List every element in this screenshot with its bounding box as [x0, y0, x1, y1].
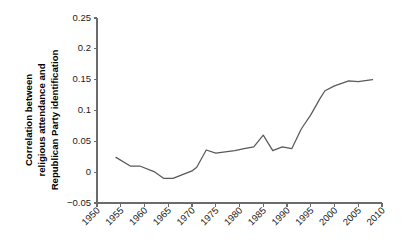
x-tick-label: 1965	[150, 205, 173, 228]
x-tick-label: 1985	[245, 205, 268, 228]
x-tick-label: 2000	[317, 205, 340, 228]
x-tick-label: 1955	[103, 205, 126, 228]
x-tick-label: 1980	[222, 205, 245, 228]
y-tick-label: 0.1	[78, 104, 91, 115]
x-tick-labels: 1950195519601965197019751980198519901995…	[79, 205, 387, 228]
correlation-line-chart: Correlation between religious attendance…	[0, 0, 402, 252]
y-tick-label: 0.2	[78, 42, 91, 53]
x-tick-label: 1960	[127, 205, 150, 228]
x-tick-label: 1990	[269, 205, 292, 228]
x-tick-label: 2005	[340, 205, 363, 228]
y-tick-label: 0	[86, 166, 91, 177]
y-axis-title-group: Correlation between religious attendance…	[23, 49, 60, 190]
y-axis-title-line-1: Correlation between	[23, 74, 34, 166]
x-tick-label: 1975	[198, 205, 221, 228]
y-tick-label: 0.05	[73, 135, 92, 146]
data-series-line	[116, 80, 373, 179]
y-tick-label: 0.15	[73, 73, 92, 84]
y-tick-label: 0.25	[73, 12, 92, 23]
y-axis-title-line-2: religious attendance and	[36, 63, 47, 176]
chart-figure: Correlation between religious attendance…	[0, 0, 402, 252]
x-tick-label: 1950	[79, 205, 102, 228]
data-series-group	[116, 80, 373, 179]
x-tick-label: 1995	[293, 205, 316, 228]
y-tick-labels: −0.0500.050.10.150.20.25	[67, 12, 91, 208]
y-axis-title-line-3: Republican Party identification	[49, 49, 60, 190]
x-tick-label: 1970	[174, 205, 197, 228]
y-tick-label: −0.05	[67, 197, 91, 208]
x-tick-label: 2010	[364, 205, 387, 228]
